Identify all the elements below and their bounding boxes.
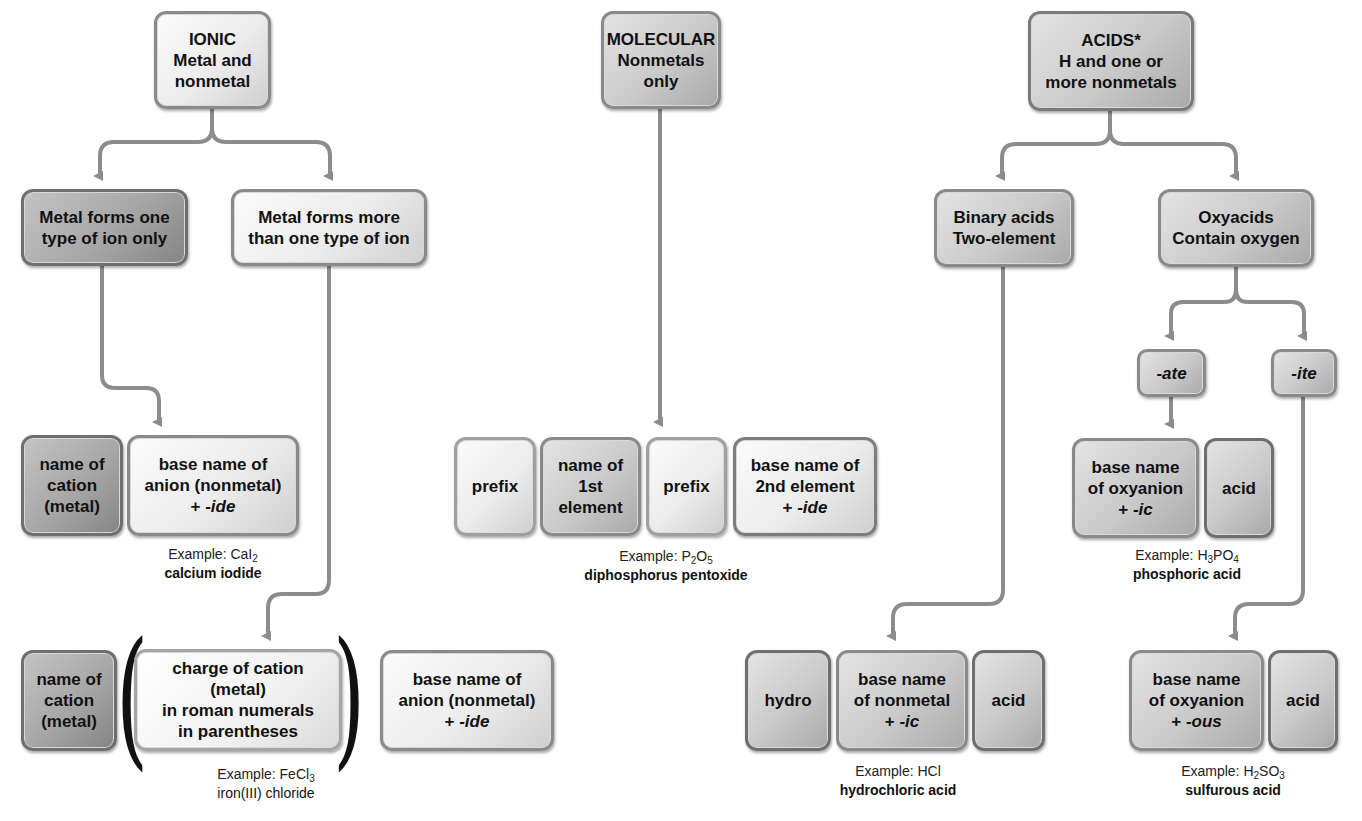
ite-suffix-box: -ite [1271,349,1337,397]
second-element-base-name-box: base name of 2nd element + -ide [733,437,877,536]
hydro-prefix-box: hydro [745,650,831,751]
roman-numeral-charge-box: charge of cation (metal) in roman numera… [134,649,342,751]
binary-acids-box: Binary acids Two-element [934,189,1074,267]
nonmetal-ic-box: base name of nonmetal + -ic [836,650,968,751]
first-element-name-box: name of 1st element [540,437,641,536]
molecular-root-box: MOLECULAR Nonmetals only [601,11,721,109]
acid-word-box-ite: acid [1268,650,1338,751]
molecular-title: MOLECULAR [607,29,716,50]
metal-multiple-ions-box: Metal forms more than one type of ion [231,189,427,266]
oxyanion-ic-box: base name of oxyanion + -ic [1072,438,1199,538]
acids-root-box: ACIDS* H and one or more nonmetals [1028,11,1194,111]
acid-word-box-binary: acid [972,650,1045,751]
metal-one-ion-box: Metal forms one type of ion only [21,189,188,266]
example-h3po4: Example: H3PO4 phosphoric acid [1133,546,1241,584]
acids-title: ACIDS* [1045,30,1176,51]
example-hcl: Example: HCl hydrochloric acid [840,762,957,800]
example-p2o5: Example: P2O5 diphosphorus pentoxide [584,547,747,585]
example-fecl3: Example: FeCl3 iron(III) chloride [217,765,314,803]
anion-base-name-box: base name of anion (nonmetal) + -ide [127,435,299,536]
example-h2so3: Example: H2SO3 sulfurous acid [1181,762,1285,800]
example-cai2: Example: CaI2 calcium iodide [164,545,261,583]
cation-name-box: name of cation (metal) [21,435,123,536]
prefix-box-2: prefix [646,437,727,536]
oxyanion-ous-box: base name of oxyanion + -ous [1129,650,1264,751]
ionic-title: IONIC [173,29,251,50]
anion-base-name-box-2: base name of anion (nonmetal) + -ide [380,650,554,751]
ate-suffix-box: -ate [1137,349,1206,397]
close-parenthesis: ) [333,612,365,782]
acid-word-box-ate: acid [1204,438,1274,538]
oxyacids-box: Oxyacids Contain oxygen [1158,189,1314,267]
prefix-box-1: prefix [454,437,536,536]
ionic-root-box: IONIC Metal and nonmetal [154,11,271,109]
cation-name-box-2: name of cation (metal) [21,650,117,751]
